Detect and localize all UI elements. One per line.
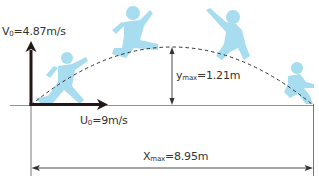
- v0-label: V0=4.87m/s: [2, 26, 66, 40]
- figure-landing-icon: [284, 62, 314, 104]
- person-figures: [36, 6, 314, 104]
- xmax-value: =8.95m: [165, 150, 208, 163]
- xmax-label: Xmax=8.95m: [143, 151, 208, 165]
- v0-vector-arrow: [26, 41, 37, 106]
- v0-value: =4.87m/s: [14, 25, 66, 38]
- xmax-dimension-arrow: [32, 165, 314, 171]
- u0-value: =9m/s: [92, 114, 127, 127]
- ymax-value: =1.21m: [197, 69, 240, 82]
- ymax-subscript: max: [182, 74, 197, 82]
- xmax-subscript: max: [150, 155, 165, 163]
- projectile-diagram: V0=4.87m/s U0=9m/s ymax=1.21m Xmax=8.95m: [0, 0, 319, 182]
- ymax-dimension-arrow: [170, 47, 175, 105]
- figure-takeoff-icon: [36, 52, 88, 104]
- ymax-label: ymax=1.21m: [176, 70, 240, 84]
- u0-label: U0=9m/s: [80, 115, 128, 129]
- u0-symbol: U: [80, 114, 88, 127]
- figure-rising-icon: [112, 6, 158, 58]
